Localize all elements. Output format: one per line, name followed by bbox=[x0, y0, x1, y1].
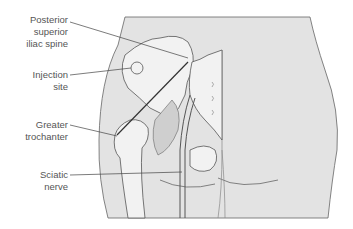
label-posterior-superior-iliac-spine: Posterior superior iliac spine bbox=[0, 14, 68, 50]
label-line: Injection bbox=[0, 69, 68, 81]
label-line: Posterior bbox=[0, 14, 68, 26]
label-injection-site: Injection site bbox=[0, 69, 68, 93]
label-greater-trochanter: Greater trochanter bbox=[0, 119, 68, 143]
label-line: Sciatic bbox=[0, 169, 68, 181]
label-line: nerve bbox=[0, 181, 68, 193]
ischium-bone bbox=[190, 146, 217, 171]
label-sciatic-nerve: Sciatic nerve bbox=[0, 169, 68, 193]
label-line: Greater bbox=[0, 119, 68, 131]
label-line: site bbox=[0, 81, 68, 93]
label-line: trochanter bbox=[0, 131, 68, 143]
label-line: superior bbox=[0, 26, 68, 38]
label-line: iliac spine bbox=[0, 38, 68, 50]
